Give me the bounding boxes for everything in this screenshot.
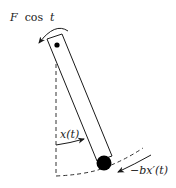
bob-mass bbox=[97, 156, 112, 171]
force-variable: t bbox=[50, 11, 55, 24]
applied-force-label: F cos t bbox=[9, 7, 55, 24]
bottom-dashed-connector bbox=[56, 170, 98, 176]
pendulum-rod bbox=[47, 34, 112, 161]
force-symbol: F bbox=[9, 11, 18, 24]
damping-force-label: −bx′(t) bbox=[130, 164, 168, 177]
pivot-point bbox=[54, 42, 59, 47]
pendulum-diagram: F cos t x(t) −bx′(t) bbox=[0, 0, 176, 188]
force-function: cos bbox=[25, 11, 44, 24]
angle-label: x(t) bbox=[60, 128, 79, 141]
